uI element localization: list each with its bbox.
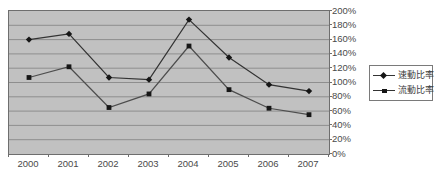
y-axis-tick (329, 10, 332, 11)
series-1-point (187, 44, 192, 49)
legend-label: 速動比率 (398, 70, 434, 81)
series-1-point (147, 92, 152, 97)
y-axis-tick (329, 24, 332, 25)
x-axis-tick (208, 154, 209, 157)
y-axis-tick (329, 153, 332, 154)
x-axis-tick (248, 154, 249, 157)
y-axis-tick-label: 200% (332, 5, 368, 16)
series-0-line (29, 20, 309, 92)
series-1-point (27, 75, 32, 80)
series-1-line (29, 46, 309, 115)
series-1-point (67, 64, 72, 69)
y-axis-tick-label: 140% (332, 47, 368, 58)
series-1-point (107, 105, 112, 110)
legend-entry-current-ratio: 流動比率 (373, 84, 430, 97)
x-axis-tick (168, 154, 169, 157)
y-axis-tick-label: 160% (332, 33, 368, 44)
series-0-point (306, 88, 312, 94)
diamond-series-marker-icon (373, 72, 395, 79)
x-axis-tick-label: 2006 (248, 158, 288, 170)
x-axis-tick (48, 154, 49, 157)
series-0-point (26, 36, 32, 42)
x-axis-tick-label: 2002 (88, 158, 128, 170)
y-axis-tick (329, 39, 332, 40)
x-axis-tick (88, 154, 89, 157)
x-axis-tick (328, 154, 329, 157)
x-axis-tick (128, 154, 129, 157)
x-axis-tick (288, 154, 289, 157)
x-axis-tick-label: 2004 (168, 158, 208, 170)
x-axis-tick-label: 2000 (8, 158, 48, 170)
legend-label: 流動比率 (398, 85, 434, 96)
x-axis-tick-label: 2003 (128, 158, 168, 170)
y-axis-tick (329, 82, 332, 83)
y-axis-tick-label: 180% (332, 19, 368, 30)
plot-area (8, 10, 330, 155)
x-axis-tick-label: 2007 (288, 158, 328, 170)
series-1-point (307, 112, 312, 117)
y-axis-tick-label: 60% (332, 105, 368, 116)
legend: 速動比率 流動比率 (369, 65, 433, 101)
y-axis-tick (329, 53, 332, 54)
x-axis-tick-label: 2001 (48, 158, 88, 170)
series-0-point (146, 76, 152, 82)
series-1-point (267, 106, 272, 111)
y-axis-tick (329, 96, 332, 97)
y-axis-tick-label: 80% (332, 90, 368, 101)
y-axis-tick (329, 139, 332, 140)
y-axis-tick-label: 40% (332, 119, 368, 130)
line-chart: 200%180%160%140%120%100%80%60%40%20%0% 2… (0, 0, 443, 180)
y-axis-tick-label: 120% (332, 62, 368, 73)
y-axis-tick-label: 0% (332, 148, 368, 159)
square-series-marker-icon (373, 87, 395, 94)
y-axis-tick (329, 110, 332, 111)
y-axis-tick-label: 20% (332, 133, 368, 144)
legend-entry-quick-ratio: 速動比率 (373, 69, 430, 82)
x-axis-tick (8, 154, 9, 157)
y-axis-tick-label: 100% (332, 76, 368, 87)
y-axis-tick (329, 124, 332, 125)
x-axis-tick-label: 2005 (208, 158, 248, 170)
chart-svg (9, 11, 329, 154)
series-1-point (227, 87, 232, 92)
y-axis-tick (329, 67, 332, 68)
